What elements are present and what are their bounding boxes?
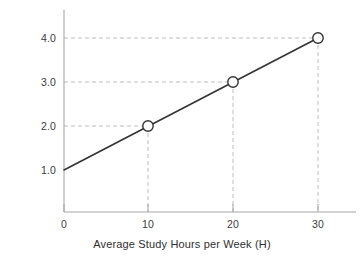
x-axis-ticks <box>64 204 318 212</box>
data-point-10-2 <box>143 121 153 131</box>
y-tick-label-1: 1.0 <box>32 164 56 176</box>
vertical-guides <box>148 38 318 212</box>
horizontal-guides <box>64 38 318 126</box>
data-point-30-4 <box>313 33 323 43</box>
x-tick-label-0: 0 <box>49 218 79 230</box>
y-tick-label-3: 3.0 <box>32 76 56 88</box>
x-tick-label-30: 30 <box>303 218 333 230</box>
x-tick-label-10: 10 <box>133 218 163 230</box>
chart-figure: 4.0 3.0 2.0 1.0 0 10 20 30 Average Study… <box>0 0 364 266</box>
y-tick-label-2: 2.0 <box>32 120 56 132</box>
y-tick-label-4: 4.0 <box>32 32 56 44</box>
x-tick-label-20: 20 <box>218 218 248 230</box>
data-point-20-3 <box>228 77 238 87</box>
data-line-series-1 <box>64 38 318 170</box>
x-axis-title: Average Study Hours per Week (H) <box>0 238 364 250</box>
